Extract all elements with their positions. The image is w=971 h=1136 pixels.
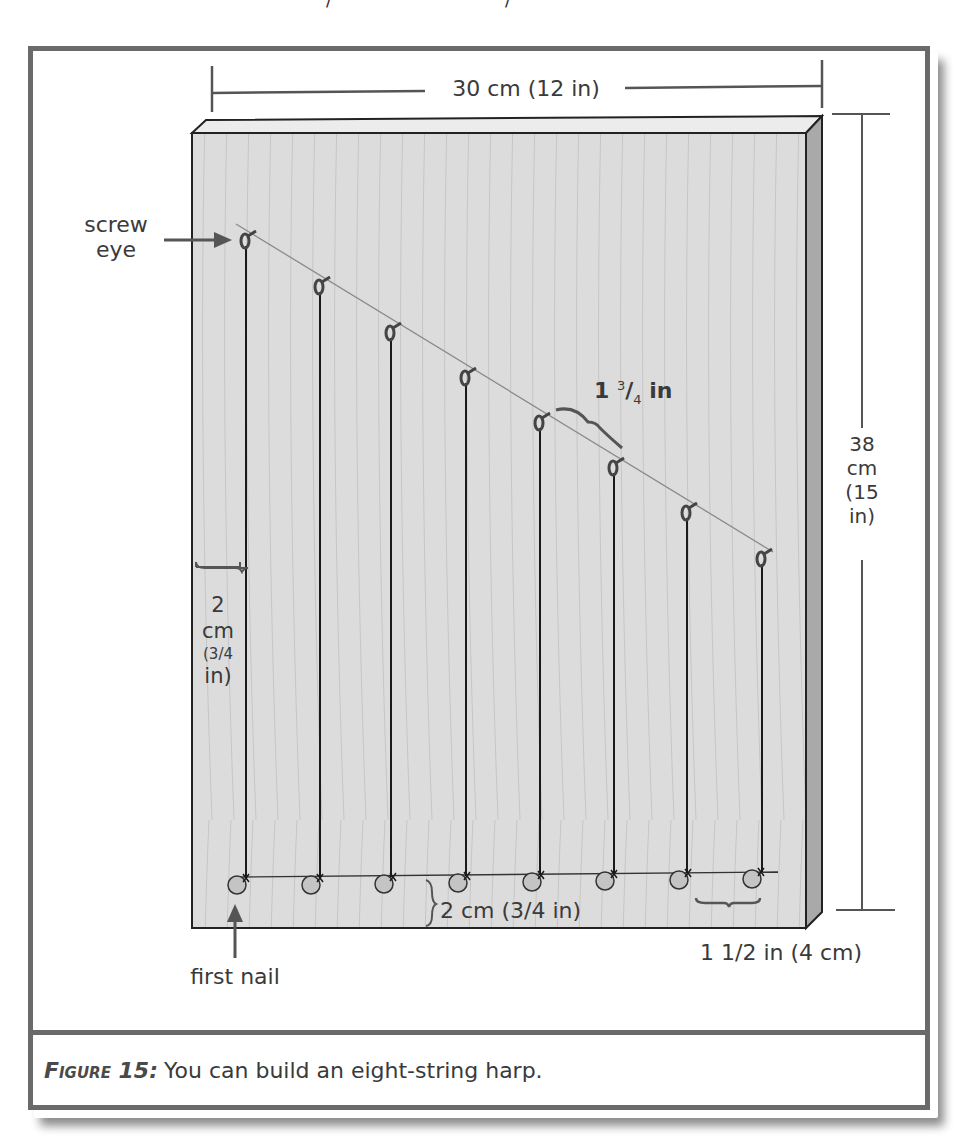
caption-label: Figure 15:: [44, 1058, 158, 1083]
partial-text: /: [326, 0, 333, 10]
nail-icon: [670, 871, 688, 889]
eye-spacing-label: 1 3/4 in: [594, 378, 684, 407]
screw-eye-callout: screw eye: [56, 212, 176, 263]
bottom-margin-label: 2 cm (3/4 in): [440, 898, 600, 924]
nail-icon: [523, 873, 541, 891]
height-label: 38 cm (15 in): [840, 432, 884, 528]
nail-icon: [449, 874, 467, 892]
board-side: [806, 116, 822, 928]
nail-icon: [596, 872, 614, 890]
board-top: [192, 116, 822, 133]
wood-board: [192, 116, 822, 928]
nail-spacing-label: 1 1/2 in (4 cm): [700, 940, 870, 966]
width-label: 30 cm (12 in): [428, 76, 624, 102]
top-margin-label: 2 cm (3/4 in): [196, 592, 240, 690]
first-nail-callout: first nail: [160, 964, 310, 990]
figure-caption: Figure 15:You can build an eight-string …: [44, 1058, 543, 1083]
nail-icon: [228, 876, 246, 894]
caption-text: You can build an eight-string harp.: [164, 1058, 543, 1083]
svg-text:/: /: [505, 0, 512, 10]
nail-icon: [375, 875, 393, 893]
nail-icon: [302, 876, 320, 894]
nail-icon: [743, 870, 761, 888]
